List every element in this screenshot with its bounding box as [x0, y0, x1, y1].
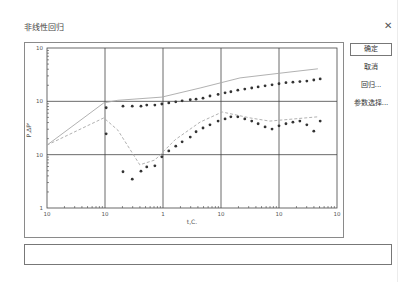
pressure-data-point: [292, 81, 295, 84]
window-edge: [397, 0, 398, 282]
regress-button[interactable]: 回归...: [350, 79, 392, 92]
pressure-data-point: [264, 84, 267, 87]
derivative-data-point: [122, 170, 125, 173]
derivative-data-point: [243, 118, 246, 121]
series: [47, 69, 322, 181]
pressure-data-point: [167, 102, 170, 105]
pressure-data-point: [298, 80, 301, 83]
y-tick-label: 1: [40, 205, 44, 211]
y-tick-label: 10: [36, 98, 43, 104]
pressure-data-point: [250, 87, 253, 90]
pressure-data-point: [243, 88, 246, 91]
derivative-data-point: [131, 178, 134, 181]
derivative-data-point: [264, 126, 267, 129]
pressure-data-point: [224, 91, 227, 94]
pressure-data-point: [105, 106, 108, 109]
pressure-data-point: [257, 86, 260, 89]
x-tick-label: 10: [276, 211, 283, 217]
derivative-data-point: [224, 118, 227, 121]
ok-button[interactable]: 确定: [350, 43, 392, 56]
derivative-data-point: [105, 132, 108, 135]
pressure-data-point: [202, 97, 205, 100]
pressure-data-point: [285, 81, 288, 84]
derivative-data-point: [209, 123, 212, 126]
x-axis-label: t,C.: [187, 218, 197, 225]
axis-ticks: 101011010101101010: [36, 45, 341, 217]
pressure-data-point: [319, 78, 322, 81]
derivative-data-point: [181, 140, 184, 143]
pressure-data-point: [236, 89, 239, 92]
pressure-data-point: [181, 99, 184, 102]
x-tick-label: 10: [218, 211, 225, 217]
pressure-data-point: [131, 105, 134, 108]
pressure-fit-line: [47, 69, 318, 145]
pressure-data-point: [209, 95, 212, 98]
derivative-data-point: [217, 120, 220, 123]
pressure-data-point: [217, 93, 220, 96]
derivative-data-point: [305, 123, 308, 126]
y-axis-label: P,ΔP': [25, 122, 32, 137]
pressure-data-point: [160, 103, 163, 106]
parameter-select-button[interactable]: 参数选择...: [350, 97, 392, 110]
derivative-data-point: [312, 130, 315, 133]
status-box: [24, 244, 392, 265]
derivative-data-point: [278, 124, 281, 127]
derivative-data-point: [292, 121, 295, 124]
x-tick-label: 10: [44, 211, 51, 217]
derivative-data-point: [236, 115, 239, 118]
pressure-data-point: [140, 105, 143, 108]
pressure-data-point: [229, 90, 232, 93]
derivative-data-point: [153, 164, 156, 167]
derivative-data-point: [140, 170, 143, 173]
derivative-data-point: [285, 122, 288, 125]
derivative-data-point: [195, 130, 198, 133]
derivative-data-point: [160, 155, 163, 158]
y-tick-label: 10: [36, 45, 43, 51]
derivative-data-point: [189, 136, 192, 139]
pressure-data-point: [195, 98, 198, 101]
derivative-data-point: [202, 127, 205, 130]
pressure-data-point: [305, 80, 308, 83]
pressure-data-point: [312, 79, 315, 82]
x-tick-label: 10: [334, 211, 341, 217]
derivative-data-point: [257, 122, 260, 125]
derivative-fit-line: [47, 112, 318, 165]
pressure-data-point: [189, 98, 192, 101]
derivative-data-point: [319, 120, 322, 123]
pressure-data-point: [271, 83, 274, 86]
derivative-data-point: [145, 166, 148, 169]
pressure-data-point: [145, 104, 148, 107]
derivative-data-point: [271, 128, 274, 131]
derivative-data-point: [250, 120, 253, 123]
pressure-data-point: [122, 105, 125, 108]
derivative-data-point: [167, 150, 170, 153]
derivative-data-point: [229, 115, 232, 118]
cancel-button[interactable]: 取消: [350, 61, 392, 74]
derivative-data-point: [174, 145, 177, 148]
y-tick-label: 10: [36, 152, 43, 158]
x-tick-label: 1: [161, 211, 165, 217]
pressure-data-point: [174, 100, 177, 103]
derivative-data-point: [298, 120, 301, 123]
pressure-data-point: [278, 82, 281, 85]
pressure-data-point: [153, 104, 156, 107]
x-tick-label: 10: [102, 211, 109, 217]
